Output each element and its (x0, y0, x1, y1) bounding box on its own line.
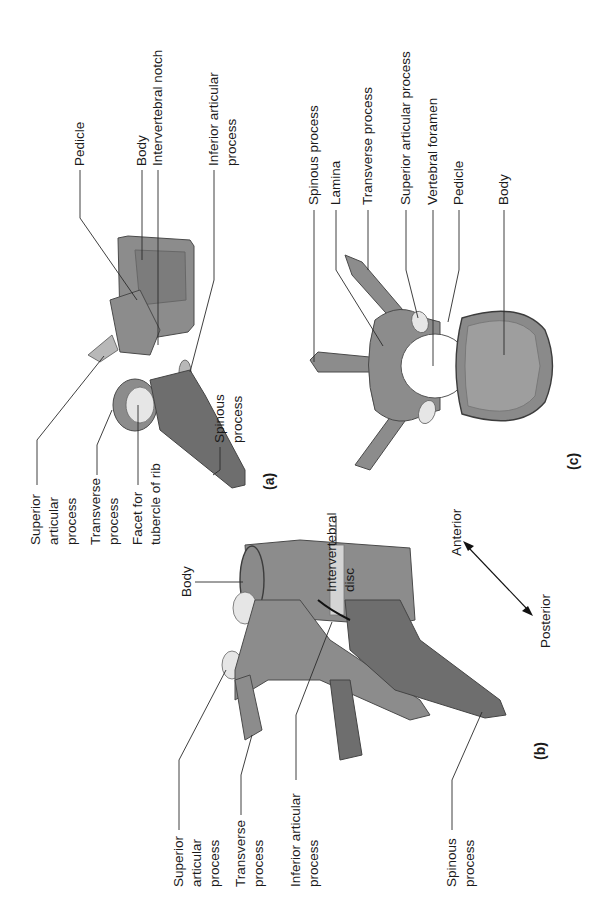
label-a-facet-1: Facet for (130, 491, 145, 545)
label-anterior: Anterior (449, 508, 464, 556)
panel-c-label: (c) (565, 453, 581, 470)
vertebra-anatomy-figure: Pedicle Body Intervertebral notch Inferi… (0, 0, 616, 924)
label-b-disc-1: Intervertebral (324, 512, 339, 592)
label-b-superior-articular-3: process (207, 839, 222, 887)
label-c-superior-articular: Superior articular process (398, 51, 413, 205)
label-b-superior-articular-1: Superior (171, 835, 186, 887)
label-posterior: Posterior (538, 593, 553, 648)
label-a-transverse-1: Transverse (88, 478, 103, 545)
label-a-transverse-2: process (106, 497, 121, 545)
label-a-facet-2: tubercle of rib (148, 463, 163, 545)
panel-a-illustration (88, 236, 245, 488)
label-b-superior-articular-2: articular (189, 838, 204, 887)
label-a-superior-articular-2: articular (46, 496, 61, 545)
label-c-transverse: Transverse process (360, 87, 375, 205)
label-a-superior-articular-3: process (64, 497, 79, 545)
panel-b-illustration (222, 540, 506, 760)
label-b-transverse-2: process (251, 839, 266, 887)
label-a-inferior-articular-1: Inferior articular (206, 72, 221, 166)
label-b-spinous-2: process (462, 839, 477, 887)
label-a-body: Body (134, 135, 149, 166)
arrow-head-anterior-icon (463, 541, 474, 551)
orientation-arrow: Anterior Posterior (449, 508, 553, 648)
label-b-transverse-1: Transverse (233, 820, 248, 887)
label-b-inferior-articular-1: Inferior articular (288, 793, 303, 887)
label-b-spinous-1: Spinous (444, 838, 459, 887)
panel-b-label: (b) (532, 742, 548, 760)
label-a-inferior-articular-2: process (224, 118, 239, 166)
label-c-body: Body (496, 174, 511, 205)
leader-b-spinous (452, 712, 482, 830)
panel-a-label: (a) (261, 473, 277, 490)
label-b-inferior-articular-2: process (306, 839, 321, 887)
label-a-superior-articular-1: Superior (28, 493, 43, 545)
leader-c-pedicle (448, 210, 459, 322)
label-a-notch: Intervertebral notch (150, 50, 165, 166)
label-a-pedicle: Pedicle (72, 122, 87, 166)
label-c-pedicle: Pedicle (451, 161, 466, 205)
label-c-foramen: Vertebral foramen (425, 98, 440, 205)
arrow-line (468, 547, 528, 610)
label-b-disc-2: disc (342, 568, 357, 592)
label-a-spinous-1: Spinous (212, 394, 227, 443)
label-c-spinous: Spinous process (306, 105, 321, 205)
arrow-head-posterior-icon (522, 606, 533, 616)
leader-a-superior-articular (37, 356, 104, 485)
leader-b-transverse (241, 735, 252, 815)
leader-b-superior-articular (179, 670, 226, 830)
leader-a-transverse (97, 410, 112, 475)
label-c-lamina: Lamina (328, 160, 343, 205)
figure-canvas: Pedicle Body Intervertebral notch Inferi… (0, 0, 616, 924)
label-b-body: Body (179, 566, 194, 597)
leader-c-superior-articular (406, 210, 418, 318)
label-a-spinous-2: process (230, 395, 245, 443)
